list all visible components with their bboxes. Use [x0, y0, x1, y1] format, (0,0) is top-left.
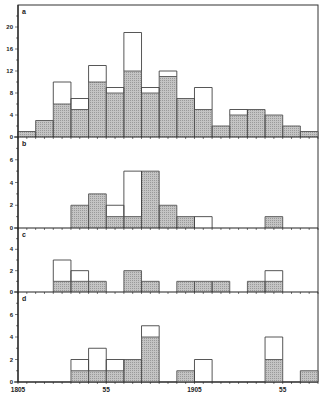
y-tick-label: 12	[6, 68, 13, 74]
y-tick-label: 16	[6, 46, 13, 52]
shaded-bar	[177, 99, 195, 138]
plot-frame	[18, 5, 318, 382]
x-tick-label: 1905	[187, 386, 202, 393]
shaded-bar	[265, 281, 283, 292]
y-tick-label: 0	[10, 134, 14, 140]
panel-a: 048121620a	[6, 5, 318, 140]
shaded-bar	[53, 104, 71, 137]
shaded-bar	[71, 205, 89, 228]
shaded-bar	[124, 271, 142, 292]
shaded-bar	[230, 115, 248, 137]
shaded-bar	[18, 132, 36, 138]
x-tick-label: 1805	[11, 386, 26, 393]
panel-c: 024c	[10, 228, 318, 295]
shaded-bar	[71, 371, 89, 382]
shaded-bar	[124, 217, 142, 228]
y-tick-label: 8	[10, 90, 14, 96]
shaded-bar	[265, 115, 283, 137]
shaded-bar	[159, 205, 177, 228]
shaded-bar	[71, 281, 89, 292]
y-tick-label: 2	[10, 268, 14, 274]
shaded-bar	[71, 110, 89, 138]
shaded-bar	[142, 281, 160, 292]
shaded-bar	[159, 77, 177, 138]
shaded-bar	[142, 337, 160, 382]
shaded-bar	[106, 371, 124, 382]
shaded-bar	[265, 217, 283, 228]
shaded-bar	[89, 281, 107, 292]
panel-label: d	[22, 295, 26, 302]
shaded-bar	[212, 126, 230, 137]
y-tick-label: 4	[10, 112, 14, 118]
shaded-bar	[265, 360, 283, 383]
shaded-bar	[194, 110, 212, 138]
y-tick-label: 4	[10, 246, 14, 252]
panel-label: a	[22, 8, 26, 15]
y-tick-label: 4	[10, 180, 14, 186]
panel-d: 0246d	[10, 292, 318, 385]
shaded-bar	[247, 110, 265, 138]
y-tick-label: 4	[10, 334, 14, 340]
total-outline	[53, 260, 282, 281]
shaded-bar	[177, 281, 195, 292]
shaded-bar	[89, 194, 107, 228]
x-tick-label: 55	[103, 386, 111, 393]
shaded-bar	[247, 281, 265, 292]
shaded-bar	[89, 82, 107, 137]
histogram-figure: 048121620a0246b024c0246d180555190555	[0, 0, 329, 397]
shaded-bar	[124, 360, 142, 383]
shaded-bar	[177, 371, 195, 382]
panel-b: 0246b	[10, 137, 318, 231]
panel-label: c	[22, 231, 26, 238]
shaded-bar	[124, 71, 142, 137]
shaded-bar	[89, 371, 107, 382]
shaded-bar	[300, 132, 318, 138]
shaded-bar	[283, 126, 301, 137]
shaded-bar	[106, 93, 124, 137]
shaded-bar	[212, 281, 230, 292]
y-tick-label: 6	[10, 157, 14, 163]
y-tick-label: 6	[10, 312, 14, 318]
y-tick-label: 0	[10, 289, 14, 295]
shaded-bar	[142, 171, 160, 228]
shaded-bar	[106, 217, 124, 228]
panel-label: b	[22, 140, 26, 147]
y-tick-label: 0	[10, 225, 14, 231]
shaded-bar	[194, 281, 212, 292]
shaded-bar	[177, 217, 195, 228]
shaded-bar	[53, 281, 71, 292]
y-tick-label: 20	[6, 24, 13, 30]
shaded-bar	[300, 371, 318, 382]
y-tick-label: 2	[10, 202, 14, 208]
y-tick-label: 0	[10, 379, 14, 385]
y-tick-label: 2	[10, 357, 14, 363]
shaded-bar	[36, 121, 54, 138]
shaded-bar	[142, 93, 160, 137]
x-tick-label: 55	[279, 386, 287, 393]
